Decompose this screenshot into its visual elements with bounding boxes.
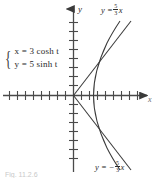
asymptote-upper-label: y = 5 3 x [101,3,122,17]
asymptote-lower-label: y = − 5 3 x [95,160,124,174]
parametric-equation-x: x = 3 cosh t [15,47,59,56]
parametric-equation-y: y = 5 sinh t [15,60,59,69]
figure-caption: Fig. 11.2.6 [5,171,38,178]
asymptote-upper-variable: x [119,6,123,15]
asymptote-upper-lhs: y = [101,6,113,15]
asymptote-lower-lhs: y = − [95,163,115,172]
asymptote-lower-variable: x [121,163,125,172]
asymptote-upper-fraction: 5 3 [113,3,118,17]
asymptote-upper-denominator: 3 [113,9,118,16]
asymptote-lower-denominator: 3 [115,166,120,173]
left-brace-icon: { [5,49,11,68]
x-axis-label: x [148,96,152,104]
parametric-equations: { x = 3 cosh t y = 5 sinh t [3,47,59,69]
hyperbola-figure: { x = 3 cosh t y = 5 sinh t y = 5 3 x y … [0,0,155,178]
asymptote-upper-line [74,21,132,96]
y-axis-label: y [78,5,82,14]
hyperbola-curve-upper [94,21,121,96]
plot-area [0,0,155,178]
asymptote-lower-line [74,96,132,171]
asymptote-lower-fraction: 5 3 [115,160,120,174]
